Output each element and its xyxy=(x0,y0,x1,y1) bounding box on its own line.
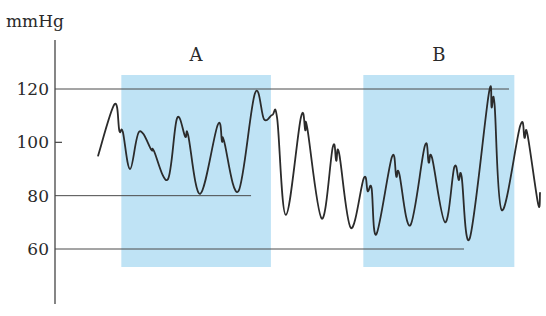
region-label-a: A xyxy=(189,44,204,65)
y-tick-label-120: 120 xyxy=(17,79,49,99)
y-axis-unit-label: mmHg xyxy=(6,11,64,31)
region-label-b: B xyxy=(432,44,445,65)
regions-layer: AB xyxy=(121,44,514,267)
y-tick-label-80: 80 xyxy=(27,186,49,206)
region-a xyxy=(121,75,271,267)
y-tick-label-100: 100 xyxy=(17,132,49,152)
blood-pressure-chart: AB 1201008060 mmHg xyxy=(0,0,546,316)
y-tick-label-60: 60 xyxy=(27,239,49,259)
